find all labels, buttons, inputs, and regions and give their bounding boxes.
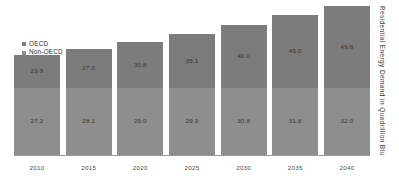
bar-value-label: 27.0 [82, 65, 95, 71]
bar-segment-non-oecd[interactable]: 29.9 [169, 88, 215, 155]
legend-item-non-oecd[interactable]: Non-OECD [22, 49, 63, 55]
x-axis-tick-2015: 2015 [66, 160, 112, 176]
bar-value-label: 28.1 [82, 118, 95, 124]
bar-value-label: 35.1 [186, 58, 199, 64]
bar-value-label: 29.0 [134, 118, 147, 124]
x-axis-tick-2040: 2040 [324, 160, 370, 176]
bar-group[interactable]: 35.129.9 [169, 6, 215, 155]
bar-segment-oecd[interactable]: 45.0 [272, 15, 318, 88]
bar-value-label: 40.0 [237, 53, 250, 59]
bar-segment-oecd[interactable]: 40.0 [221, 25, 267, 88]
bar-segment-oecd[interactable]: 27.0 [66, 49, 112, 88]
bar-value-label: 27.2 [31, 118, 44, 124]
bar-value-label: 29.9 [186, 118, 199, 124]
square-marker-icon [22, 51, 26, 55]
bar-segment-oecd[interactable]: 23.9 [14, 55, 60, 88]
x-axis-tick-2035: 2035 [272, 160, 318, 176]
bar-segment-non-oecd[interactable]: 29.0 [117, 88, 163, 155]
bar-value-label: 45.0 [289, 48, 302, 54]
bar-group[interactable]: 27.028.1 [66, 6, 112, 155]
bar-segment-non-oecd[interactable]: 30.8 [221, 88, 267, 155]
x-axis-tick-2020: 2020 [117, 160, 163, 176]
y-axis-title-container: Residential Energy Demand in Quadrillion… [374, 6, 390, 171]
chart-legend: OECD Non-OECD [22, 41, 63, 56]
y-axis-title: Residential Energy Demand in Quadrillion… [379, 6, 385, 156]
bar-value-label: 23.9 [31, 68, 44, 74]
x-axis-tick-labels: 2010201520202025203020352040 [14, 160, 370, 176]
square-marker-icon [22, 42, 26, 46]
bar-group[interactable]: 40.030.8 [221, 6, 267, 155]
x-axis-tick-2025: 2025 [169, 160, 215, 176]
plot-area: 23.927.227.028.130.829.035.129.940.030.8… [14, 6, 370, 155]
stacked-bar-chart: 23.927.227.028.130.829.035.129.940.030.8… [0, 0, 399, 186]
legend-label: OECD [29, 41, 48, 47]
x-axis-tick-2010: 2010 [14, 160, 60, 176]
bar-value-label: 30.8 [237, 118, 250, 124]
bar-segment-non-oecd[interactable]: 28.1 [66, 88, 112, 155]
bar-value-label: 49.8 [341, 44, 354, 50]
bars-layer: 23.927.227.028.130.829.035.129.940.030.8… [14, 6, 370, 155]
bar-group[interactable]: 30.829.0 [117, 6, 163, 155]
bar-group[interactable]: 49.832.0 [324, 6, 370, 155]
legend-item-oecd[interactable]: OECD [22, 41, 63, 47]
bar-group[interactable]: 45.031.8 [272, 6, 318, 155]
bar-segment-non-oecd[interactable]: 32.0 [324, 88, 370, 155]
bar-value-label: 32.0 [341, 118, 354, 124]
bar-segment-non-oecd[interactable]: 31.8 [272, 88, 318, 155]
x-axis-tick-2030: 2030 [221, 160, 267, 176]
legend-label: Non-OECD [29, 49, 63, 55]
bar-segment-oecd[interactable]: 30.8 [117, 42, 163, 88]
bar-segment-oecd[interactable]: 35.1 [169, 34, 215, 88]
bar-value-label: 30.8 [134, 62, 147, 68]
bar-segment-oecd[interactable]: 49.8 [324, 6, 370, 88]
bar-segment-non-oecd[interactable]: 27.2 [14, 88, 60, 155]
axis-baseline [14, 155, 370, 156]
bar-group[interactable]: 23.927.2 [14, 6, 60, 155]
bar-value-label: 31.8 [289, 118, 302, 124]
